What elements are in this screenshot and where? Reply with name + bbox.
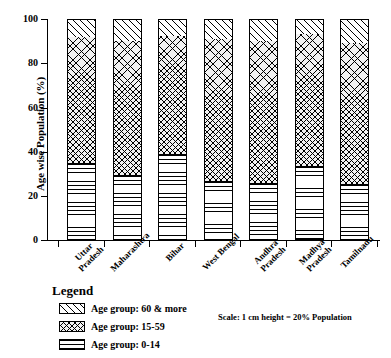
segment-age-15-59 xyxy=(296,32,323,167)
legend-label-15-59: Age group: 15-59 xyxy=(91,321,165,332)
bar-uttar-pradesh[interactable] xyxy=(67,19,96,240)
segment-age-15-59 xyxy=(341,41,368,185)
y-tick-label-80: 80 xyxy=(0,58,38,68)
segment-age-60-more xyxy=(114,20,141,41)
legend-swatch-cross-hatch-icon xyxy=(59,321,85,332)
y-tick-label-40: 40 xyxy=(0,147,38,157)
segment-age-60-more xyxy=(250,20,277,41)
scale-note: Scale: 1 cm height = 20% Population xyxy=(218,312,352,322)
segment-age-15-59 xyxy=(159,34,186,156)
x-tick-7 xyxy=(377,241,378,247)
segment-age-60-more xyxy=(205,20,232,39)
legend-label-60-more: Age group: 60 & more xyxy=(91,303,187,314)
legend-swatch-horizontal-lines-icon xyxy=(59,339,85,350)
segment-age-60-more xyxy=(159,20,186,36)
segment-age-0-14 xyxy=(159,155,186,239)
legend-label-0-14: Age group: 0-14 xyxy=(91,339,160,350)
y-tick-0 xyxy=(41,240,48,241)
segment-age-60-more xyxy=(296,20,323,34)
segment-age-15-59 xyxy=(205,37,232,182)
segment-age-0-14 xyxy=(296,167,323,239)
segment-age-15-59 xyxy=(114,39,141,176)
segment-age-15-59 xyxy=(68,35,95,164)
segment-age-0-14 xyxy=(341,185,368,239)
bar-tamilnadu[interactable] xyxy=(340,19,369,240)
segment-age-60-more xyxy=(341,20,368,43)
bar-madhya-pradesh[interactable] xyxy=(295,19,324,240)
segment-age-0-14 xyxy=(68,164,95,239)
bar-maharashtra[interactable] xyxy=(113,19,142,240)
x-tick-4 xyxy=(240,241,241,247)
legend-item-60-more[interactable]: Age group: 60 & more xyxy=(59,302,187,315)
bar-andhra-pradesh[interactable] xyxy=(249,19,278,240)
segment-age-0-14 xyxy=(250,184,277,239)
legend-item-15-59[interactable]: Age group: 15-59 xyxy=(59,320,165,333)
x-tick-2 xyxy=(149,241,150,247)
y-tick-label-0: 0 xyxy=(0,235,38,245)
legend-item-0-14[interactable]: Age group: 0-14 xyxy=(59,338,160,351)
y-tick-label-20: 20 xyxy=(0,191,38,201)
bar-bihar[interactable] xyxy=(158,19,187,240)
legend-swatch-diagonal-hatch-icon xyxy=(59,303,85,314)
chart-container: Age wise Population (%) 100 80 60 40 20 … xyxy=(0,0,391,358)
y-tick-label-100: 100 xyxy=(0,14,38,24)
legend-title: Legend xyxy=(52,283,93,299)
segment-age-60-more xyxy=(68,20,95,37)
x-tick-3 xyxy=(195,241,196,247)
y-tick-label-60: 60 xyxy=(0,103,38,113)
plot-area xyxy=(47,19,379,240)
segment-age-15-59 xyxy=(250,39,277,184)
bar-west-bengal[interactable] xyxy=(204,19,233,240)
segment-age-0-14 xyxy=(114,176,141,239)
x-tick-0 xyxy=(58,241,59,247)
segment-age-0-14 xyxy=(205,182,232,240)
